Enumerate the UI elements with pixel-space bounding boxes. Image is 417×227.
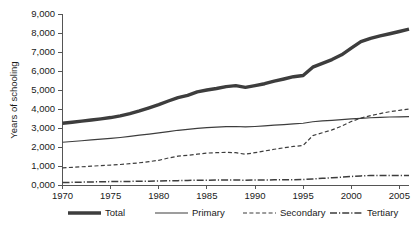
y-axis-ticks: 0,0001,0002,0003,0004,0005,0006,0007,000… [31,8,62,190]
legend-label-primary: Primary [192,207,225,218]
series-line-tertiary [63,176,410,183]
x-tick-label: 1985 [196,190,217,201]
chart-legend: TotalPrimarySecondaryTertiary [68,207,398,218]
x-tick-label: 1970 [52,190,73,201]
y-axis-title: Years of schooling [8,61,19,138]
y-tick-label: 6,000 [31,65,55,76]
x-tick-label: 1980 [148,190,169,201]
x-axis-ticks: 19701975198019851990199520002005 [52,185,410,201]
x-tick-label: 1975 [100,190,121,201]
x-tick-label: 1990 [244,190,265,201]
x-tick-label: 1995 [293,190,314,201]
series-line-total [63,29,410,123]
line-chart: Years of schooling 0,0001,0002,0003,0004… [0,0,417,227]
data-series-group [63,29,410,182]
y-tick-label: 8,000 [31,27,55,38]
y-tick-label: 0,000 [31,179,55,190]
series-line-primary [63,117,410,143]
chart-canvas: Years of schooling 0,0001,0002,0003,0004… [0,0,417,227]
y-tick-label: 3,000 [31,122,55,133]
y-axis-title-text: Years of schooling [8,61,19,138]
y-tick-label: 7,000 [31,46,55,57]
y-tick-label: 4,000 [31,103,55,114]
legend-label-tertiary: Tertiary [367,207,398,218]
x-tick-label: 2000 [341,190,362,201]
y-tick-label: 1,000 [31,160,55,171]
legend-label-secondary: Secondary [280,207,326,218]
y-tick-label: 9,000 [31,8,55,19]
legend-label-total: Total [105,207,125,218]
x-tick-label: 2005 [389,190,410,201]
y-tick-label: 5,000 [31,84,55,95]
y-tick-label: 2,000 [31,141,55,152]
